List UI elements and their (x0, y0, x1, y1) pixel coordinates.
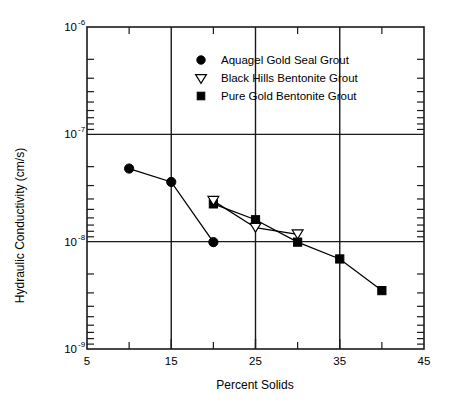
x-tick-labels: 5 15 25 35 45 (84, 355, 431, 367)
x-tick-label-3: 35 (333, 355, 346, 367)
legend-marker-square-icon (197, 92, 205, 100)
legend-label-2: Pure Gold Bentonite Grout (221, 90, 357, 102)
x-tick-label-0: 5 (84, 355, 90, 367)
y-tick-label-base-3: 10 (64, 343, 77, 355)
y-tick-label-exp-3: -9 (78, 340, 86, 349)
y-tick-label-exp-1: -7 (78, 125, 86, 134)
y-tick-labels: 10 -6 10 -7 10 -8 10 -9 (64, 18, 85, 355)
legend-label-1: Black Hills Bentonite Grout (221, 72, 359, 84)
y-tick-label-base-1: 10 (64, 128, 77, 140)
y-tick-label-exp-2: -8 (78, 233, 86, 242)
data-point-circle (209, 238, 218, 247)
y-tick-label-exp-0: -6 (78, 18, 86, 27)
data-point-square (336, 255, 344, 263)
chart-figure: 10 -6 10 -7 10 -8 10 -9 5 15 25 35 45 Pe… (0, 0, 451, 406)
y-tick-label-base-0: 10 (64, 21, 77, 33)
data-point-circle (167, 177, 176, 186)
data-point-circle (125, 164, 134, 173)
x-tick-label-2: 25 (249, 355, 262, 367)
x-tick-label-1: 15 (165, 355, 178, 367)
x-tick-label-4: 45 (418, 355, 431, 367)
legend-label-0: Aquagel Gold Seal Grout (221, 54, 350, 66)
data-point-square (251, 216, 259, 224)
data-point-square (378, 287, 386, 295)
x-axis-title: Percent Solids (216, 378, 293, 392)
y-tick-label-base-2: 10 (64, 236, 77, 248)
chart-legend: Aquagel Gold Seal Grout Black Hills Bent… (196, 54, 359, 102)
chart-canvas: 10 -6 10 -7 10 -8 10 -9 5 15 25 35 45 Pe… (0, 0, 451, 406)
legend-marker-circle-icon (197, 56, 205, 64)
